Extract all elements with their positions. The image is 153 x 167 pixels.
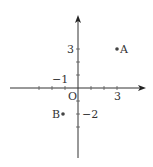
x-tick-label-neg1: −1 (52, 73, 68, 86)
y-tick-label-3: 3 (67, 43, 74, 56)
origin-label: O (68, 90, 77, 103)
point-b (61, 112, 65, 116)
point-b-label: B (52, 108, 60, 121)
coordinate-plane: −2 3 −1 O 3 −2 A B (0, 0, 153, 167)
point-a (115, 47, 119, 51)
y-tick-label-neg2: −2 (82, 108, 98, 121)
x-tick-label-3: 3 (114, 90, 121, 103)
point-a-label: A (119, 43, 129, 56)
